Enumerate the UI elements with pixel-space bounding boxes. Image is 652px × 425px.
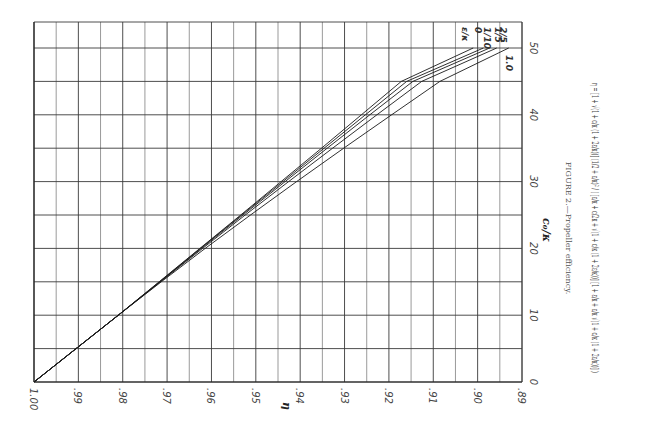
y-tick-label: 40: [528, 108, 539, 121]
y-tick-label: 30: [528, 175, 539, 188]
efficiency-formula: η = [1 + √(1 + c/κ (1 + 2ε/κ))] (1/2 + ε…: [590, 83, 601, 373]
legend-title: ε/κ: [460, 27, 470, 42]
x-tick-label: .92: [383, 388, 394, 404]
y-tick-label: 20: [528, 242, 539, 255]
x-tick-label: .99: [72, 388, 83, 404]
x-tick-label: .91: [427, 388, 438, 404]
x-tick-label: 1.00: [28, 388, 39, 410]
x-tick-label: .95: [250, 388, 261, 404]
x-tick-label: .96: [205, 388, 216, 404]
y-tick-label: 50: [528, 42, 539, 55]
legend-entry: 2/5: [498, 27, 508, 43]
legend-entry: 0: [473, 27, 483, 33]
y-tick-label: 10: [528, 309, 539, 322]
x-tick-label: .93: [339, 388, 350, 404]
eta-tick-labels: 1.00.99.98.97.96.95.94.93.92.91.90.89: [28, 388, 527, 410]
x-tick-label: .90: [472, 388, 483, 404]
x-tick-label: .89: [516, 388, 527, 404]
grid: [34, 22, 522, 382]
x-axis-title: η: [280, 402, 293, 410]
x-tick-label: .94: [294, 388, 305, 404]
y-axis-title: c₀/κ: [540, 218, 553, 242]
figure-caption: FIGURE 2.—Propeller efficiency.: [564, 162, 573, 294]
legend: ε/κ01/101/52/51.0: [460, 27, 513, 71]
legend-entry: 1/10: [482, 27, 492, 49]
legend-entry: 1.0: [504, 55, 514, 71]
x-tick-label: .97: [161, 388, 172, 405]
c-over-kappa-tick-labels: 01020304050: [528, 42, 539, 386]
propeller-efficiency-chart: 1.00.99.98.97.96.95.94.93.92.91.90.89 01…: [0, 0, 652, 425]
x-tick-label: .98: [117, 388, 128, 404]
y-tick-label: 0: [528, 379, 539, 385]
